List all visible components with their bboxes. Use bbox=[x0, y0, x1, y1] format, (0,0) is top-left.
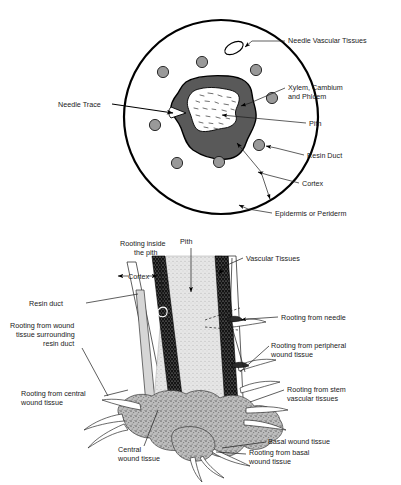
label-rooting-stem-line2: vascular tissues bbox=[287, 394, 339, 403]
label-resin-duct-bottom: Resin duct bbox=[29, 299, 63, 308]
label-rooting-central-line1: Rooting from central bbox=[21, 389, 86, 398]
label-rooting-stem-line1: Rooting from stem bbox=[287, 385, 346, 394]
label-rooting-wound-resin-line3: resin duct bbox=[43, 339, 74, 348]
label-needle-vascular-tissues: Needle Vascular Tissues bbox=[288, 36, 367, 45]
label-rooting-inside-pith-line1: Rooting inside bbox=[120, 239, 166, 248]
resin-duct bbox=[253, 139, 264, 150]
label-epidermis-or-periderm: Epidermis or Periderm bbox=[275, 209, 347, 218]
label-rooting-inside-pith-line2: the pith bbox=[134, 248, 158, 257]
label-cortex-top: Cortex bbox=[302, 179, 324, 188]
label-rooting-basal-line1: Rooting from basal bbox=[249, 448, 310, 457]
label-rooting-wound-resin-line2: tissue surrounding bbox=[16, 330, 75, 339]
anatomy-figure: Needle Vascular Tissues Xylem, Cambium a… bbox=[0, 0, 401, 485]
resin-duct bbox=[266, 92, 277, 103]
label-pith-top: Pith bbox=[309, 119, 321, 128]
label-rooting-wound-resin-line1: Rooting from wound bbox=[10, 321, 74, 330]
label-rooting-basal-line2: wound tissue bbox=[248, 457, 291, 466]
resin-duct bbox=[149, 119, 160, 130]
label-rooting-central-line2: wound tissue bbox=[20, 398, 63, 407]
label-rooting-from-needle: Rooting from needle bbox=[281, 313, 346, 322]
label-resin-duct-top: Resin Duct bbox=[307, 151, 342, 160]
label-vascular-tissues: Vascular Tissues bbox=[246, 254, 300, 263]
resin-duct bbox=[171, 157, 182, 168]
resin-duct bbox=[213, 156, 224, 167]
resin-duct bbox=[196, 56, 207, 67]
resin-duct bbox=[250, 64, 261, 75]
label-rooting-peripheral-line1: Rooting from peripheral bbox=[271, 341, 347, 350]
label-pith-bottom: Pith bbox=[180, 237, 192, 246]
label-rooting-peripheral-line2: wound tissue bbox=[270, 350, 313, 359]
label-central-wound-line1: Central bbox=[118, 445, 142, 454]
label-central-wound-line2: wound tissue bbox=[117, 454, 160, 463]
label-needle-trace: Needle Trace bbox=[58, 100, 101, 109]
label-xylem-cambium-line2: and Phloem bbox=[288, 92, 326, 101]
label-xylem-cambium-line1: Xylem, Cambium bbox=[288, 83, 343, 92]
figure-root: Needle Vascular Tissues Xylem, Cambium a… bbox=[0, 0, 401, 485]
resin-duct bbox=[157, 66, 168, 77]
label-cortex-bottom: Cortex bbox=[128, 272, 150, 281]
label-basal-wound-tissue: Basal wound tissue bbox=[268, 437, 330, 446]
